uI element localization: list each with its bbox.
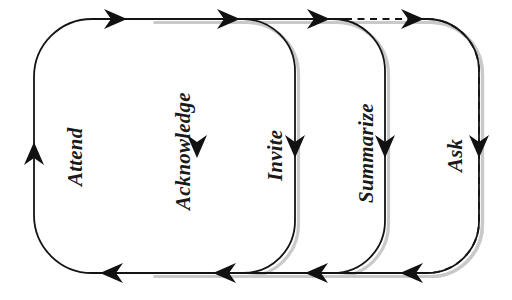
loop-labels: Attend Acknowledge Invite Summarize Ask: [63, 92, 467, 212]
top-arrow-summarize: [401, 9, 424, 29]
process-loop-diagram: Attend Acknowledge Invite Summarize Ask: [0, 0, 512, 300]
arrowheads: [24, 9, 489, 283]
label-invite: Invite: [263, 130, 287, 182]
loop-shadows: [154, 23, 483, 277]
label-acknowledge: Acknowledge: [171, 92, 195, 212]
diagram-canvas: Attend Acknowledge Invite Summarize Ask: [0, 0, 512, 300]
label-attend: Attend: [63, 127, 87, 188]
label-ask: Ask: [443, 138, 467, 174]
label-summarize: Summarize: [354, 103, 378, 203]
